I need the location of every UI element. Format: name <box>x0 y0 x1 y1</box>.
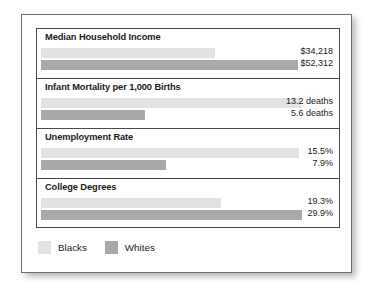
value-label-blacks: 15.5% <box>307 146 333 156</box>
value-label-whites: 29.9% <box>307 208 333 218</box>
value-label-whites: $52,312 <box>300 58 333 68</box>
legend-item-whites: Whites <box>105 241 155 254</box>
bar-blacks <box>41 98 301 108</box>
chart-group: Unemployment Rate 15.5% 7.9% <box>37 129 339 179</box>
bar-whites <box>41 60 298 70</box>
bar-blacks <box>41 48 215 58</box>
bar-blacks <box>41 198 221 208</box>
bar-whites <box>41 160 166 170</box>
bar-whites <box>41 210 302 220</box>
value-label-whites: 5.6 deaths <box>291 108 333 118</box>
value-label-blacks: 19.3% <box>307 196 333 206</box>
bar-blacks <box>41 148 299 158</box>
chart-legend: Blacks Whites <box>38 241 173 254</box>
chart-panel: Median Household Income $34,218 $52,312 … <box>36 28 340 228</box>
legend-label: Whites <box>125 242 155 253</box>
chart-group: Infant Mortality per 1,000 Births 13.2 d… <box>37 79 339 129</box>
legend-swatch-icon <box>105 241 118 254</box>
group-title: Infant Mortality per 1,000 Births <box>45 82 181 92</box>
chart-group: Median Household Income $34,218 $52,312 <box>37 29 339 79</box>
group-title: Unemployment Rate <box>45 132 133 142</box>
chart-group: College Degrees 19.3% 29.9% <box>37 179 339 229</box>
value-label-whites: 7.9% <box>312 158 333 168</box>
group-title: Median Household Income <box>45 32 160 42</box>
legend-swatch-icon <box>38 241 51 254</box>
bar-whites <box>41 110 145 120</box>
legend-item-blacks: Blacks <box>38 241 87 254</box>
legend-label: Blacks <box>58 242 87 253</box>
value-label-blacks: 13.2 deaths <box>286 96 333 106</box>
value-label-blacks: $34,218 <box>300 46 333 56</box>
figure-frame: Median Household Income $34,218 $52,312 … <box>21 14 352 273</box>
group-title: College Degrees <box>45 182 116 192</box>
